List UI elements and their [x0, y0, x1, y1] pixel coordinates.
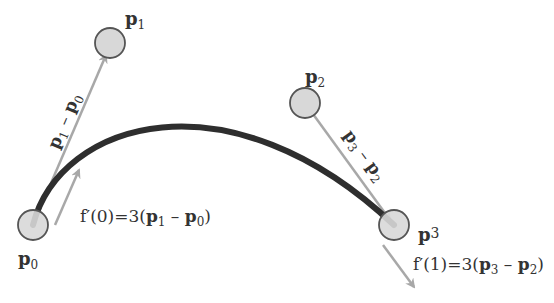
- label-p0: p0: [18, 248, 38, 272]
- label-p3: p3: [418, 224, 440, 245]
- tangent-arrow-end: [383, 245, 414, 287]
- point-p0[interactable]: [18, 210, 48, 240]
- point-p3[interactable]: [379, 210, 409, 240]
- label-p2: p2: [305, 66, 325, 90]
- label-p3-minus-p2: p3 – p2: [337, 126, 390, 187]
- equation-f-prime-0: f′(0)=3(p1 – p0): [80, 206, 211, 229]
- label-p1: p1: [125, 8, 145, 32]
- label-p1-minus-p0: p1 – p0: [43, 90, 87, 153]
- equation-f-prime-1: f′(1)=3(p3 – p2): [413, 254, 544, 277]
- point-p1[interactable]: [95, 28, 125, 58]
- bezier-diagram: p0 p1 p2 p3 p1 – p0 p3 – p2 f′(0)=3(p1 –…: [0, 0, 554, 303]
- point-p2[interactable]: [290, 88, 320, 118]
